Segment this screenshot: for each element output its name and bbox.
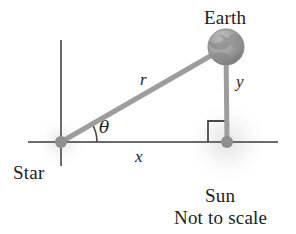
label-r: r: [140, 71, 147, 88]
figure-canvas: Earth Star Sun Not to scale r x y θ: [0, 0, 296, 234]
label-not-to-scale: Not to scale: [174, 208, 267, 227]
sun-dot: [221, 136, 233, 148]
label-y: y: [236, 73, 244, 90]
earth-sphere: [208, 29, 245, 66]
label-sun: Sun: [205, 186, 235, 205]
star-dot: [55, 136, 67, 148]
label-theta: θ: [99, 119, 109, 136]
diagram-svg: [0, 0, 296, 234]
label-x: x: [135, 148, 143, 165]
label-earth: Earth: [204, 8, 246, 27]
theta-arc: [92, 124, 97, 142]
label-star: Star: [13, 163, 44, 182]
